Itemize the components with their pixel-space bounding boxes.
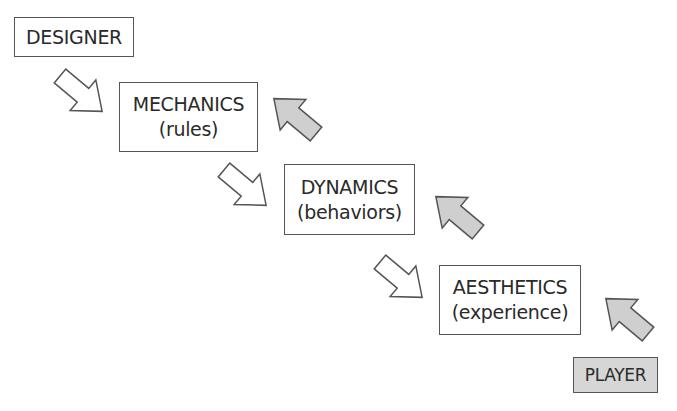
mda-diagram: DESIGNER MECHANICS (rules) DYNAMICS (beh… — [0, 0, 677, 411]
designer-label: DESIGNER — [26, 25, 122, 50]
aesthetics-node: AESTHETICS (experience) — [439, 265, 581, 335]
dynamics-label: DYNAMICS — [301, 175, 398, 200]
dynamics-node: DYNAMICS (behaviors) — [284, 164, 415, 235]
mechanics-label: MECHANICS — [133, 92, 244, 117]
player-node: PLAYER — [573, 357, 658, 393]
aesthetics-sublabel: (experience) — [452, 300, 569, 325]
mechanics-node: MECHANICS (rules) — [119, 82, 258, 152]
aesthetics-to-dynamics-arrow — [423, 181, 491, 247]
dynamics-to-aesthetics-arrow — [367, 247, 435, 313]
aesthetics-label: AESTHETICS — [453, 275, 568, 300]
mechanics-sublabel: (rules) — [159, 117, 218, 142]
mechanics-to-dynamics-arrow — [211, 155, 279, 221]
designer-to-mechanics-arrow — [47, 61, 115, 127]
dynamics-to-mechanics-arrow — [261, 83, 329, 149]
designer-node: DESIGNER — [14, 17, 134, 57]
player-label: PLAYER — [585, 364, 647, 386]
dynamics-sublabel: (behaviors) — [297, 200, 402, 225]
player-to-aesthetics-arrow — [593, 283, 661, 349]
